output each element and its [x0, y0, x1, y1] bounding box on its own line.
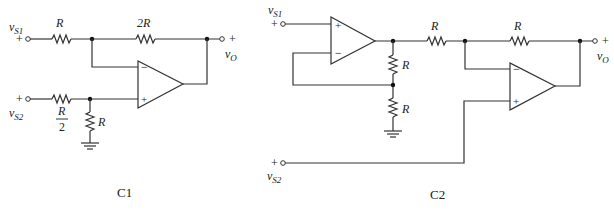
c2-node-divider: [391, 83, 395, 87]
c2-opamp-1: + −: [331, 17, 375, 64]
c1-input-vs1: vS1 +: [9, 20, 30, 46]
c2-resistor-series: [427, 37, 446, 45]
c2-opamp2-minus: −: [513, 62, 520, 76]
c1-opamp: − +: [138, 60, 183, 108]
c1-opamp-minus: −: [141, 60, 148, 74]
c2-opamp-2: − +: [510, 62, 555, 110]
c1-caption: C1: [117, 185, 132, 200]
c1-vs1-terminal: [26, 37, 31, 42]
c2-resistor-div-top: [389, 55, 397, 74]
c1-vo-terminal: [220, 37, 225, 42]
c2-input-vs2: + vS2: [267, 156, 285, 185]
c1-ground-icon: [81, 143, 99, 149]
circuit-c2: vS1 + + − R R R: [267, 3, 609, 202]
c2-resistor-feedback: [510, 37, 529, 45]
c2-vs2-label: vS2: [267, 169, 282, 185]
circuit-c1: vS1 + R 2R + vO − + + vS2: [9, 16, 237, 200]
c1-vo-plus: +: [229, 32, 236, 46]
c1-resistor-r-half: [52, 95, 71, 103]
c2-vs2-terminal: [281, 161, 286, 166]
c1-resistor-r-shunt: [86, 112, 94, 131]
c2-ground-icon: [384, 131, 402, 137]
c1-resistor-2r-feedback: [136, 35, 155, 43]
c2-vo-terminal: [593, 39, 598, 44]
c1-r-shunt-label: R: [97, 115, 106, 129]
c2-vs1-plus: +: [271, 17, 278, 31]
c1-input-vs2: + vS2: [9, 92, 30, 122]
c1-vs2-label: vS2: [9, 106, 24, 122]
c1-r-half-denominator: 2: [59, 120, 65, 134]
c2-vo-label: vO: [597, 49, 609, 65]
c1-vs2-terminal: [26, 97, 31, 102]
c2-r-feedback-label: R: [513, 19, 522, 33]
c1-opamp-plus: +: [141, 93, 147, 105]
c2-opamp1-plus: +: [335, 19, 341, 31]
c2-opamp2-plus: +: [513, 95, 519, 107]
c2-resistor-div-bottom: [389, 98, 397, 117]
c2-input-vs1: vS1 +: [268, 3, 285, 31]
c2-opamp1-minus: −: [335, 46, 342, 60]
c1-resistor-r-in1: [52, 35, 71, 43]
circuit-figure: vS1 + R 2R + vO − + + vS2: [0, 0, 614, 211]
c1-vs2-plus: +: [16, 92, 23, 106]
c2-vo-plus: +: [602, 34, 609, 48]
c2-r-div-top-label: R: [401, 58, 410, 72]
c1-r-feedback-label: 2R: [137, 16, 151, 30]
c1-r-in1-label: R: [55, 16, 64, 30]
c1-vs1-plus: +: [16, 32, 23, 46]
c1-r-half-numerator: R: [57, 104, 66, 118]
c2-r-series-label: R: [430, 19, 439, 33]
c2-vs2-plus: +: [271, 156, 278, 170]
c2-vs1-terminal: [281, 22, 286, 27]
c2-caption: C2: [430, 187, 445, 202]
c1-vo-label: vO: [225, 47, 237, 63]
c2-r-div-bottom-label: R: [401, 102, 410, 116]
